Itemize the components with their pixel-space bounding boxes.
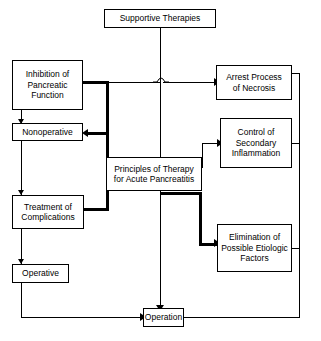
connector-thick-elimination-h [161,192,201,195]
node-operation[interactable]: Operation [143,308,184,327]
connector-operative-to-bus [21,283,22,318]
diagram-canvas: Supportive Therapies Inhibition of Pancr… [0,0,321,341]
node-supportive-therapies[interactable]: Supportive Therapies [104,9,216,28]
connector-thick-nonoperative [88,132,109,135]
node-inhibition-of-pancreatic-function[interactable]: Inhibition of Pancreatic Function [12,60,83,110]
node-arrest-process-of-necrosis[interactable]: Arrest Process of Necrosis [216,65,292,100]
connector-thick-elimination-v [199,192,202,244]
connector-center-to-arrest [163,82,216,83]
node-elimination-of-possible-etiologic-factors[interactable]: Elimination of Possible Etiologic Factor… [217,224,292,272]
node-treatment-of-complications[interactable]: Treatment of Complications [12,195,84,229]
node-nonoperative[interactable]: Nonoperative [12,123,83,141]
connector-center-to-supportive [160,27,161,167]
node-principles-of-therapy[interactable]: Principles of Therapy for Acute Pancreat… [106,157,202,191]
connector-center-to-control-inflammation-v [202,143,203,168]
node-control-of-secondary-inflammation[interactable]: Control of Secondary Inflammation [220,118,292,168]
connector-bus-right [183,317,300,318]
connector-right-bus-vertical [299,73,300,317]
connector-center-to-operation [160,190,161,307]
connector-thick-left-vertical [106,81,109,165]
connector-nonoperative-to-treatment [21,141,22,195]
connector-thick-treatment-h [84,208,109,211]
line-jump-hop [153,74,169,86]
connector-bus-left [21,317,143,318]
node-operative[interactable]: Operative [12,264,69,283]
